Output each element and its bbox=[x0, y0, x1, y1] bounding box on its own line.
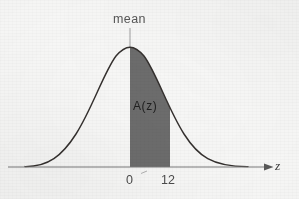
area-label: A(z) bbox=[133, 100, 157, 112]
mean-label-text: mean bbox=[113, 12, 146, 26]
minor-tick-mark bbox=[141, 171, 147, 174]
mean-label: mean bbox=[0, 13, 299, 26]
figure-canvas: mean A(z) 0 12 z bbox=[0, 0, 299, 199]
x-tick-label-12: 12 bbox=[161, 174, 175, 187]
x-tick-label-0: 0 bbox=[126, 174, 133, 187]
x-axis-arrowhead bbox=[264, 163, 274, 170]
x-axis-label: z bbox=[275, 159, 280, 173]
